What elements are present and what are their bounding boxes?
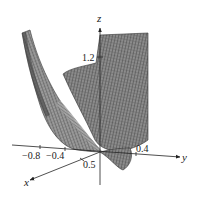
surface-plot-figure: z y x 1.2 −0.8 −0.4 0.4 0.5	[0, 0, 200, 198]
x-axis-label: x	[23, 176, 29, 188]
y-tick-label-neg-0-4: −0.4	[46, 150, 64, 161]
x-tick-label-0-5: 0.5	[83, 159, 96, 170]
y-axis-label: y	[181, 151, 187, 163]
z-axis-label: z	[96, 12, 102, 24]
y-tick-label-0-4: 0.4	[136, 143, 149, 154]
y-tick-label-neg-0-8: −0.8	[22, 150, 40, 161]
plot-canvas: z y x 1.2 −0.8 −0.4 0.4 0.5	[0, 0, 200, 198]
z-tick-label-1-2: 1.2	[82, 52, 95, 63]
